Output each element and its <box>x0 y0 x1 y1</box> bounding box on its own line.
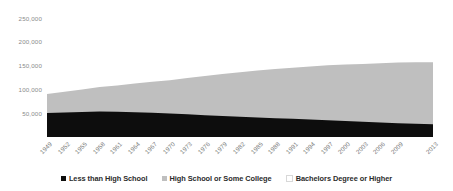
x-axis-tick-label: 2000 <box>336 140 351 155</box>
legend-item-high-school-or-some-college: High School or Some College <box>162 174 272 183</box>
x-axis-tick-label: 1964 <box>126 140 141 155</box>
x-axis-tick-label: 1976 <box>196 140 211 155</box>
x-axis-tick-label: 1967 <box>143 140 158 155</box>
area-series-layer <box>47 8 433 137</box>
chart-legend: Less than High School High School or Som… <box>0 171 453 186</box>
x-axis-tick-label: 2009 <box>389 140 404 155</box>
plot-area <box>47 8 433 137</box>
y-axis-tick-label: 150,000 <box>19 62 42 69</box>
x-axis: 1949195219551958196119641967197019731976… <box>47 137 433 171</box>
x-axis-tick-label: 1952 <box>56 140 71 155</box>
legend-item-bachelors-degree-or-higher: Bachelors Degree or Higher <box>286 174 392 183</box>
x-axis-tick-label: 1982 <box>231 140 246 155</box>
x-axis-tick-label: 1985 <box>249 140 264 155</box>
y-axis-tick-label: 100,000 <box>19 86 42 93</box>
x-axis-tick-label: 1988 <box>266 140 281 155</box>
x-axis-tick-label: 1955 <box>73 140 88 155</box>
x-axis-tick-label: 1991 <box>284 140 299 155</box>
legend-label: Less than High School <box>69 174 148 183</box>
legend-swatch-icon <box>61 176 66 181</box>
y-axis-tick-label: 200,000 <box>19 38 42 45</box>
legend-item-less-than-high-school: Less than High School <box>61 174 148 183</box>
x-axis-tick-label: 2006 <box>372 140 387 155</box>
legend-swatch-icon <box>286 175 293 182</box>
legend-swatch-icon <box>162 176 167 181</box>
x-axis-tick-label: 1961 <box>108 140 123 155</box>
y-axis: 50,000100,000150,000200,000250,000 <box>0 0 47 145</box>
x-axis-tick-label: 1958 <box>91 140 106 155</box>
x-axis-tick-label: 1979 <box>214 140 229 155</box>
x-axis-tick-label: 1973 <box>179 140 194 155</box>
x-axis-tick-label: 1997 <box>319 140 334 155</box>
x-axis-tick-label: 2013 <box>424 140 439 155</box>
legend-label: Bachelors Degree or Higher <box>296 174 392 183</box>
legend-label: High School or Some College <box>170 174 272 183</box>
x-axis-tick-label: 2003 <box>354 140 369 155</box>
y-axis-tick-label: 50,000 <box>22 110 42 117</box>
y-axis-tick-label: 250,000 <box>19 14 42 21</box>
stacked-area-chart: 50,000100,000150,000200,000250,000 19491… <box>0 0 453 191</box>
x-axis-tick-label: 1994 <box>301 140 316 155</box>
x-axis-tick-label: 1970 <box>161 140 176 155</box>
